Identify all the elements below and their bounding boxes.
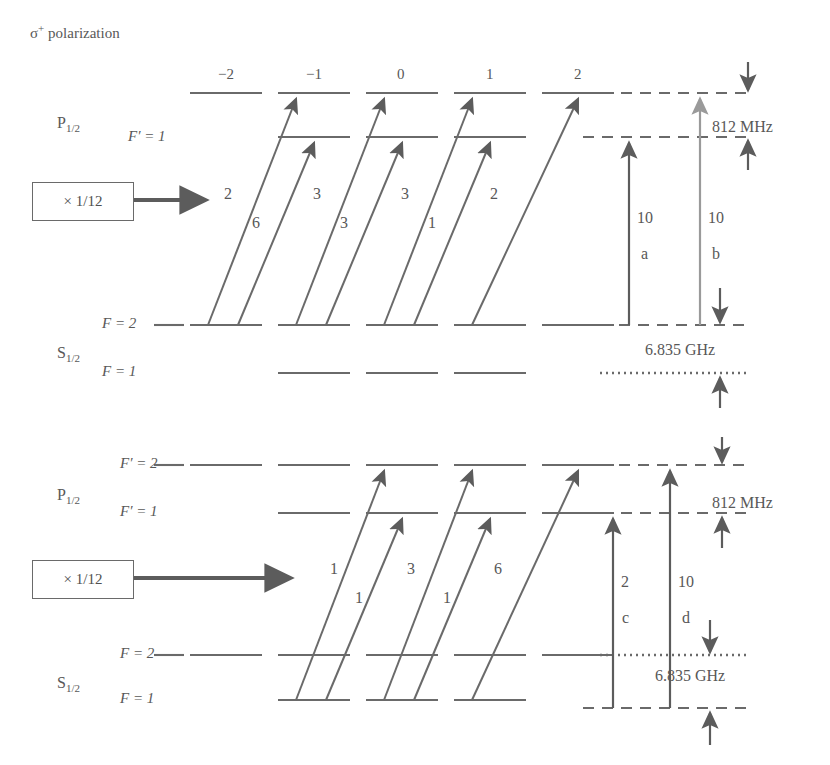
figure-title: σ+ polarization [30, 22, 120, 42]
top-strength-7: 2 [490, 185, 498, 203]
bottom-strength-4: 1 [443, 589, 451, 607]
bottom-strength-3: 3 [407, 560, 415, 578]
m-label-neg2: −2 [218, 66, 234, 83]
m-label-2: 2 [574, 66, 582, 83]
bottom-panel-label-leaders [154, 465, 184, 655]
top-strength-1: 2 [224, 185, 232, 203]
bottom-level-label-F1: F = 1 [120, 690, 154, 707]
bottom-level-label-Fprime2: F′ = 2 [120, 455, 158, 472]
top-strength-4: 3 [340, 214, 348, 232]
top-strength-6: 1 [428, 214, 436, 232]
top-panel-slanted-transitions [208, 99, 578, 325]
top-panel-measure-arrows [720, 62, 748, 408]
bottom-scale-box: × 1/12 [32, 560, 134, 599]
top-scale-box-label: × 1/12 [64, 193, 103, 210]
bottom-strength-1: 1 [330, 560, 338, 578]
m-label-0: 0 [397, 66, 405, 83]
bottom-P-subscript: 1/2 [66, 494, 80, 506]
bottom-vertical-arrow-d-letter: d [682, 609, 690, 627]
bottom-term-symbol-S: S1/2 [57, 674, 80, 694]
top-term-symbol-S: S1/2 [57, 344, 80, 364]
top-term-symbol-P: P1/2 [57, 114, 80, 134]
top-level-label-F2: F = 2 [102, 315, 136, 332]
m-label-neg1: −1 [306, 66, 322, 83]
bottom-vertical-arrow-c-strength: 2 [621, 573, 629, 591]
top-S-letter: S [57, 344, 66, 361]
bottom-freq-6835: 6.835 GHz [655, 667, 725, 685]
top-level-label-Fprime1: F′ = 1 [128, 128, 166, 145]
top-P-letter: P [57, 114, 66, 131]
top-vertical-arrow-a-strength: 10 [637, 209, 653, 227]
bottom-scale-box-label: × 1/12 [64, 571, 103, 588]
bottom-freq-812: 812 MHz [712, 494, 773, 512]
top-strength-3: 3 [313, 185, 321, 203]
top-strength-2: 6 [252, 214, 260, 232]
top-freq-6835: 6.835 GHz [645, 341, 715, 359]
bottom-strength-2: 1 [355, 589, 363, 607]
bottom-term-symbol-P: P1/2 [57, 486, 80, 506]
top-scale-box: × 1/12 [32, 182, 134, 221]
bottom-level-label-Fprime1: F′ = 1 [120, 503, 158, 520]
m-label-1: 1 [486, 66, 494, 83]
bottom-panel-measure-arrows [710, 437, 722, 745]
top-vertical-arrow-b-letter: b [712, 245, 720, 263]
polarization-word: polarization [44, 25, 119, 41]
figure-root: σ+ polarization P1/2 F′ = 1 × 1/12 S1/2 … [0, 0, 830, 765]
top-panel-levels [190, 93, 614, 373]
top-strength-5: 3 [401, 185, 409, 203]
bottom-panel-slanted-transitions [296, 471, 578, 700]
bottom-P-letter: P [57, 486, 66, 503]
top-vertical-arrow-a-letter: a [641, 245, 648, 263]
top-S-subscript: 1/2 [66, 352, 80, 364]
bottom-S-subscript: 1/2 [66, 682, 80, 694]
top-P-subscript: 1/2 [66, 122, 80, 134]
top-level-label-F1: F = 1 [102, 363, 136, 380]
bottom-strength-5: 6 [494, 560, 502, 578]
bottom-panel-levels [190, 465, 614, 700]
bottom-vertical-arrow-c-letter: c [622, 609, 629, 627]
bottom-vertical-arrow-d-strength: 10 [678, 573, 694, 591]
bottom-S-letter: S [57, 674, 66, 691]
sigma-symbol: σ [30, 25, 38, 41]
top-freq-812: 812 MHz [712, 118, 773, 136]
top-vertical-arrow-b-strength: 10 [708, 209, 724, 227]
bottom-level-label-F2: F = 2 [120, 645, 154, 662]
